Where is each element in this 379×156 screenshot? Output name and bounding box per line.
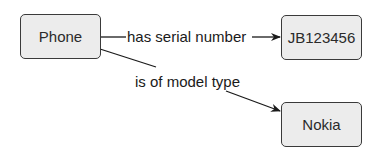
node-model[interactable]: Nokia (281, 102, 362, 147)
edge-label-has-serial-number: has serial number (127, 29, 246, 45)
edge-label-is-of-model-type: is of model type (135, 74, 240, 90)
node-phone[interactable]: Phone (20, 14, 101, 59)
node-model-label: Nokia (302, 116, 340, 133)
node-phone-label: Phone (39, 28, 82, 45)
node-serial-number[interactable]: JB123456 (281, 15, 362, 60)
node-serial-number-label: JB123456 (288, 29, 356, 46)
